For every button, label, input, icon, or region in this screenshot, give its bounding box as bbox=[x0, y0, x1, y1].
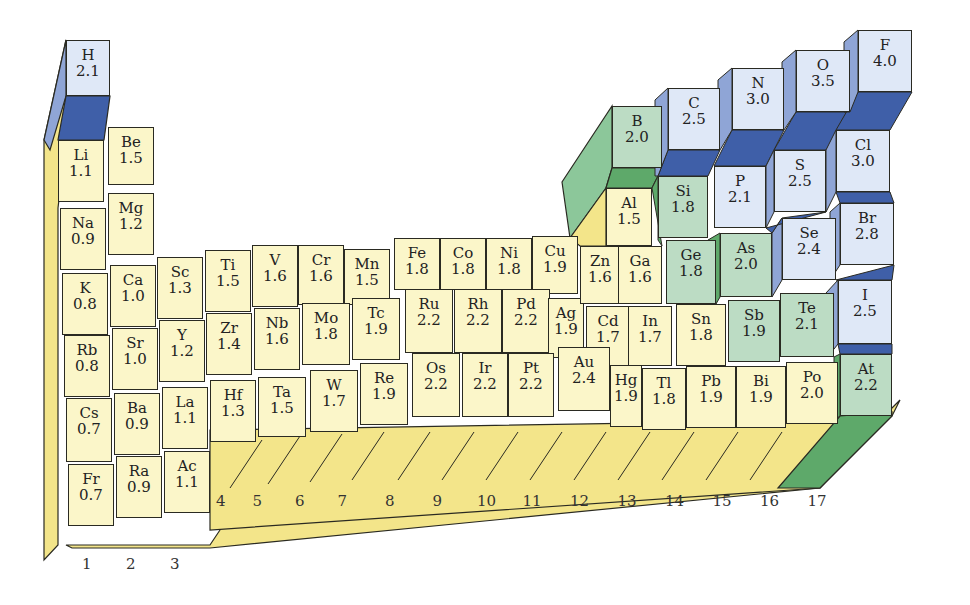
chlorine-top-face bbox=[836, 192, 894, 203]
electronegativity-value: 2.5 bbox=[775, 173, 825, 189]
element-symbol: Mn bbox=[345, 250, 389, 272]
electronegativity-value: 1.8 bbox=[677, 327, 725, 343]
element-symbol: Au bbox=[559, 348, 609, 370]
element-cell-br: Br2.8 bbox=[840, 203, 894, 265]
element-symbol: Rh bbox=[455, 290, 501, 312]
element-cell-as: As2.0 bbox=[720, 233, 772, 297]
group-label-17: 17 bbox=[808, 492, 827, 510]
element-cell-ta: Ta1.5 bbox=[258, 377, 306, 437]
element-cell-ca: Ca1.0 bbox=[110, 265, 156, 327]
element-symbol: Zn bbox=[581, 247, 619, 269]
element-symbol: Si bbox=[659, 177, 707, 199]
group-label-4: 4 bbox=[216, 492, 226, 510]
electronegativity-value: 2.2 bbox=[413, 376, 459, 392]
element-symbol: Mg bbox=[109, 194, 153, 216]
electronegativity-value: 1.9 bbox=[533, 259, 577, 275]
element-symbol: As bbox=[721, 234, 771, 256]
electronegativity-value: 2.0 bbox=[787, 385, 837, 401]
element-symbol: Ca bbox=[111, 266, 155, 288]
element-cell-f: F4.0 bbox=[858, 30, 912, 92]
element-symbol: Al bbox=[607, 189, 651, 211]
element-cell-sr: Sr1.0 bbox=[112, 328, 158, 390]
element-cell-tc: Tc1.9 bbox=[352, 298, 400, 360]
element-symbol: Cd bbox=[587, 307, 629, 329]
electronegativity-value: 1.9 bbox=[729, 323, 779, 339]
group-label-6: 6 bbox=[295, 492, 305, 510]
periodic-table-diagram: H2.1Li1.1Be1.5Na0.9Mg1.2K0.8Ca1.0Sc1.3Ti… bbox=[0, 0, 970, 605]
element-cell-ru: Ru2.2 bbox=[405, 289, 453, 353]
electronegativity-value: 3.0 bbox=[733, 91, 783, 107]
element-cell-cl: Cl3.0 bbox=[836, 130, 890, 192]
element-symbol: Ir bbox=[463, 354, 507, 376]
electronegativity-value: 1.6 bbox=[299, 268, 343, 284]
group-label-13: 13 bbox=[618, 492, 637, 510]
element-symbol: Se bbox=[783, 219, 835, 241]
element-cell-n: N3.0 bbox=[732, 68, 784, 130]
element-cell-ir: Ir2.2 bbox=[462, 353, 508, 417]
element-symbol: V bbox=[253, 246, 297, 268]
element-symbol: Bi bbox=[737, 367, 785, 389]
electronegativity-value: 0.9 bbox=[117, 479, 161, 495]
electronegativity-value: 1.6 bbox=[255, 331, 299, 347]
element-cell-ra: Ra0.9 bbox=[116, 456, 162, 518]
element-symbol: S bbox=[775, 151, 825, 173]
electronegativity-value: 2.2 bbox=[503, 312, 549, 328]
element-cell-pd: Pd2.2 bbox=[502, 289, 550, 353]
electronegativity-value: 1.8 bbox=[441, 261, 485, 277]
element-cell-si: Si1.8 bbox=[658, 176, 708, 238]
element-symbol: Be bbox=[109, 128, 153, 150]
element-symbol: Mo bbox=[303, 304, 349, 326]
element-cell-rb: Rb0.8 bbox=[64, 335, 110, 397]
element-cell-zn: Zn1.6 bbox=[580, 246, 620, 304]
element-symbol: Cu bbox=[533, 237, 577, 259]
element-cell-re: Re1.9 bbox=[360, 363, 408, 425]
element-cell-s: S2.5 bbox=[774, 150, 826, 212]
element-cell-mo: Mo1.8 bbox=[302, 303, 350, 365]
element-cell-h: H2.1 bbox=[66, 40, 110, 96]
electronegativity-value: 1.5 bbox=[109, 150, 153, 166]
group-label-11: 11 bbox=[523, 492, 542, 510]
electronegativity-value: 1.0 bbox=[111, 288, 155, 304]
element-cell-ba: Ba0.9 bbox=[114, 393, 160, 455]
electronegativity-value: 1.8 bbox=[487, 261, 531, 277]
element-symbol: Pb bbox=[687, 367, 735, 389]
electronegativity-value: 1.8 bbox=[643, 391, 685, 407]
element-symbol: Cl bbox=[837, 131, 889, 153]
electronegativity-value: 1.8 bbox=[395, 261, 439, 277]
element-symbol: Po bbox=[787, 363, 837, 385]
element-symbol: Sb bbox=[729, 301, 779, 323]
element-symbol: Ru bbox=[406, 290, 452, 312]
element-symbol: Ti bbox=[206, 251, 250, 273]
element-cell-ti: Ti1.5 bbox=[205, 250, 251, 312]
element-cell-li: Li1.1 bbox=[58, 140, 104, 202]
element-symbol: Na bbox=[61, 209, 105, 231]
element-cell-nb: Nb1.6 bbox=[254, 308, 300, 370]
electronegativity-value: 2.0 bbox=[721, 256, 771, 272]
electronegativity-value: 0.9 bbox=[115, 416, 159, 432]
element-symbol: Te bbox=[781, 294, 833, 316]
element-cell-se: Se2.4 bbox=[782, 218, 836, 280]
element-cell-cu: Cu1.9 bbox=[532, 236, 578, 294]
electronegativity-value: 1.5 bbox=[345, 272, 389, 288]
electronegativity-value: 1.5 bbox=[206, 273, 250, 289]
element-cell-fr: Fr0.7 bbox=[68, 464, 114, 526]
carbon-top-face bbox=[658, 150, 720, 176]
element-cell-cr: Cr1.6 bbox=[298, 245, 344, 305]
electronegativity-value: 1.1 bbox=[163, 410, 207, 426]
element-cell-na: Na0.9 bbox=[60, 208, 106, 270]
element-cell-sb: Sb1.9 bbox=[728, 300, 780, 362]
element-symbol: Cr bbox=[299, 246, 343, 268]
element-symbol: Re bbox=[361, 364, 407, 386]
element-symbol: Os bbox=[413, 354, 459, 376]
element-cell-cs: Cs0.7 bbox=[66, 398, 112, 462]
hydrogen-top-face bbox=[58, 96, 110, 140]
element-symbol: B bbox=[613, 107, 661, 129]
electronegativity-value: 1.8 bbox=[667, 263, 715, 279]
element-cell-ga: Ga1.6 bbox=[618, 246, 662, 304]
element-cell-o: O3.5 bbox=[796, 50, 850, 112]
electronegativity-value: 1.2 bbox=[109, 216, 153, 232]
group-label-15: 15 bbox=[713, 492, 732, 510]
element-cell-au: Au2.4 bbox=[558, 347, 610, 411]
element-symbol: Hf bbox=[211, 381, 255, 403]
element-cell-tl: Tl1.8 bbox=[642, 368, 686, 430]
